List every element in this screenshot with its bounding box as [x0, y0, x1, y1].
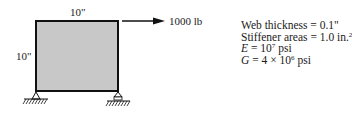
pin-support-icon	[23, 92, 48, 104]
material-properties: Web thickness = 0.1" Stiffener areas = 1…	[241, 20, 352, 66]
load-arrow-icon	[122, 18, 165, 25]
load-label: 1000 lb	[169, 15, 202, 27]
roller-support-icon	[106, 92, 130, 106]
shear-modulus-line: G = 4 × 106 psi	[241, 55, 352, 67]
